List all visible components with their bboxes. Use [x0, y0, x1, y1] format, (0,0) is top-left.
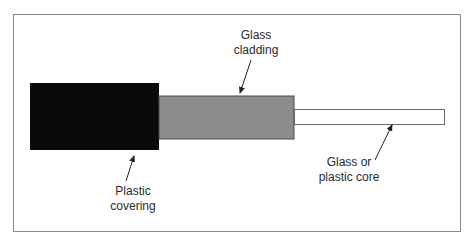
plastic-covering-shape — [30, 83, 159, 150]
covering-label-line1: Plastic — [115, 184, 150, 198]
glass-cladding-shape — [159, 96, 294, 139]
covering-label-line2: covering — [110, 199, 155, 213]
core-label-line1: Glass or — [327, 155, 372, 169]
core-label-line2: plastic core — [319, 170, 380, 184]
core-shape — [295, 110, 445, 125]
cladding-label-line2: cladding — [234, 43, 279, 57]
cladding-label-line1: Glass — [241, 28, 272, 42]
fiber-diagram: Glass cladding Plastic covering Glass or… — [0, 0, 473, 244]
